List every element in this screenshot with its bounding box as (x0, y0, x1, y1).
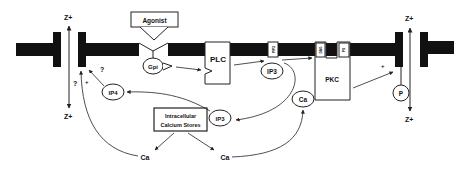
calcium-stores-label-line2: Calcium Stores (160, 122, 200, 128)
arrow-plc-to-pip2 (234, 61, 264, 65)
ps-label: PS (342, 48, 346, 52)
arrow-pip2-to-dag (282, 58, 312, 60)
arrow-stores-to-ca-left (155, 133, 174, 150)
agonist-label: Agonist (142, 17, 167, 25)
pkc-label: PKC (325, 76, 339, 83)
arrow-ca-right-to-ca-pkc (232, 110, 303, 157)
membrane-right-channel-outer (420, 32, 428, 67)
ip3-cytosol-label: IP3 (215, 116, 225, 122)
p-label: P (399, 90, 404, 97)
arrow-pkc-to-channel (353, 72, 393, 88)
membrane-far-right (427, 41, 454, 54)
arrow-gpi-to-plc (176, 67, 201, 70)
calcium-stores-box (154, 108, 207, 131)
plus-ca-to-channel: + (85, 79, 89, 85)
ip3-membrane-label: IP3 (267, 68, 277, 75)
signaling-pathway-diagram: Z+ Z+ Z+ Z+ Agonist Gpi PLC PIP2 IP3 DAG… (0, 0, 471, 169)
membrane-left-segment (86, 43, 139, 56)
agonist-binding-triangle (140, 27, 168, 40)
membrane-center-segment (168, 43, 395, 56)
membrane-left-channel-inner (78, 32, 86, 67)
ca-right-label: Ca (221, 154, 230, 161)
question-ip4-to-channel: ? (100, 66, 104, 73)
ip4-label: IP4 (108, 90, 118, 96)
dag-label: DAG (319, 46, 323, 54)
z-plus-right-bottom: Z+ (405, 116, 413, 123)
gpi-label: Gpi (148, 64, 158, 70)
plc-label: PLC (210, 55, 226, 64)
ca-pkc-label: Ca (299, 96, 308, 103)
pip2-label: PIP2 (272, 46, 276, 53)
ca-left-label: Ca (141, 154, 150, 161)
gpi-pointer (163, 63, 172, 70)
cell-membrane (16, 32, 454, 67)
question-channel: ? (73, 80, 77, 87)
membrane-left-channel-outer (53, 32, 61, 67)
membrane-far-left (16, 43, 54, 56)
z-plus-left-bottom: Z+ (64, 113, 72, 120)
membrane-right-channel-inner (395, 32, 403, 67)
z-plus-right-top: Z+ (405, 15, 413, 22)
z-plus-left-top: Z+ (64, 14, 72, 21)
calcium-stores-label-line1: Intracellular (165, 113, 197, 119)
receptor (139, 43, 168, 58)
plus-pkc-to-channel: + (381, 63, 385, 69)
arrow-ca-left-to-channel (81, 71, 138, 156)
arrow-stores-to-ca-right (188, 133, 214, 150)
